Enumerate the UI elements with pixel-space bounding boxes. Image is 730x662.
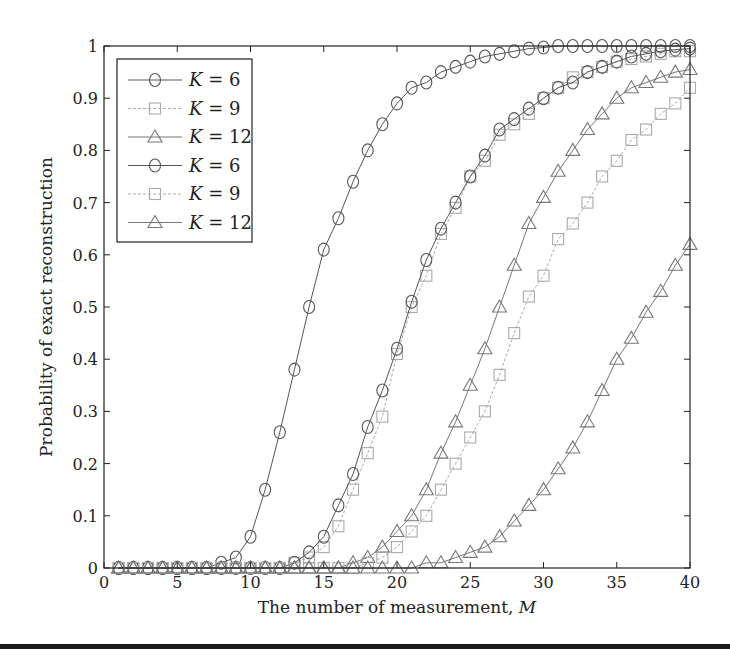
x-tick-label: 15	[314, 573, 334, 592]
y-tick-label: 0.5	[73, 298, 98, 317]
x-tick-label: 25	[460, 573, 480, 592]
y-tick-label: 0.3	[73, 402, 98, 421]
y-tick-label: 0.7	[73, 194, 98, 213]
y-tick-label: 0	[88, 559, 98, 578]
x-tick-label: 0	[99, 573, 109, 592]
x-tick-label: 35	[607, 573, 627, 592]
x-tick-label: 5	[172, 573, 182, 592]
legend-label: K = 12	[188, 126, 252, 147]
x-tick-label: 30	[533, 573, 553, 592]
y-tick-label: 0.2	[73, 455, 98, 474]
bottom-rule	[0, 644, 730, 649]
x-tick-label: 40	[680, 573, 700, 592]
x-axis-label: The number of measurement, M	[258, 597, 537, 617]
x-tick-label: 10	[240, 573, 260, 592]
y-tick-label: 0.9	[73, 89, 98, 108]
y-tick-label: 0.1	[73, 507, 98, 526]
legend-label: K = 9	[188, 183, 240, 204]
y-axis-label: Probability of exact reconstruction	[36, 157, 56, 457]
x-tick-label: 20	[387, 573, 407, 592]
y-tick-label: 0.4	[73, 350, 98, 369]
legend: K = 6K = 9K = 12K = 6K = 9K = 12	[117, 59, 252, 242]
y-tick-label: 1	[88, 37, 98, 56]
legend-label: K = 6	[188, 69, 240, 90]
y-tick-label: 0.8	[73, 141, 98, 160]
legend-label: K = 9	[188, 98, 240, 119]
legend-label: K = 12	[188, 212, 252, 233]
y-tick-label: 0.6	[73, 246, 98, 265]
legend-label: K = 6	[188, 155, 240, 176]
chart: 051015202530354000.10.20.30.40.50.60.70.…	[0, 0, 730, 662]
